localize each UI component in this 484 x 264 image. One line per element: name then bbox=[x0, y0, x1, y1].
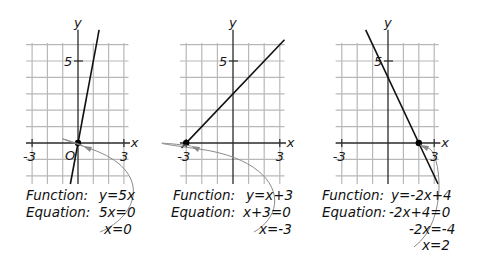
equation-label: Equation: bbox=[26, 204, 90, 220]
tick-label-y-5: 5 bbox=[219, 54, 227, 69]
pointer-arrowhead bbox=[83, 146, 92, 152]
equation-value: x+3=0 bbox=[242, 204, 291, 220]
panel-2: y x 5 -3 3 Function: y=x+3 Equation: x+3… bbox=[162, 15, 295, 237]
solution-value: x=0 bbox=[103, 221, 132, 237]
tick-label-x-min: -3 bbox=[23, 149, 36, 164]
origin-label: O bbox=[65, 148, 75, 163]
axes bbox=[180, 30, 286, 184]
grid bbox=[180, 43, 285, 184]
tick-label-x-min: -3 bbox=[333, 149, 346, 164]
pointer-arrowhead bbox=[191, 146, 200, 152]
y-axis-label: y bbox=[73, 15, 82, 30]
panel-3: y x 5 -3 3 Function: y=-2x+4 Equation: -… bbox=[322, 15, 455, 253]
x-axis-label: x bbox=[440, 135, 449, 150]
tick-label-x-max: 3 bbox=[120, 149, 128, 164]
function-line bbox=[366, 30, 438, 184]
step-value: -2x=-4 bbox=[409, 221, 455, 237]
equation-text: Function: y=-2x+4 Equation: -2x+4=0 -2x=… bbox=[322, 187, 455, 253]
tick-label-y-5: 5 bbox=[374, 54, 382, 69]
tick-label-y-5: 5 bbox=[64, 54, 72, 69]
tick-label-x-max: 3 bbox=[430, 149, 438, 164]
axes bbox=[336, 30, 441, 184]
equation-text: Function: y=5x Equation: 5x=0 x=0 bbox=[26, 187, 136, 237]
function-label: Function: bbox=[322, 187, 384, 203]
tick-label-x-min: -3 bbox=[177, 149, 190, 164]
solution-value: x=2 bbox=[421, 237, 450, 253]
y-axis-label: y bbox=[228, 15, 237, 30]
panel-1: y x 5 -3 3 O Function: y=5x Equation: 5x… bbox=[23, 15, 139, 237]
function-label: Function: bbox=[173, 187, 235, 203]
tick-label-x-max: 3 bbox=[276, 149, 284, 164]
function-label: Function: bbox=[26, 187, 88, 203]
grid bbox=[336, 43, 439, 184]
equation-text: Function: y=x+3 Equation: x+3=0 x=-3 bbox=[171, 187, 293, 237]
function-value: y=-2x+4 bbox=[390, 187, 452, 203]
equation-value: -2x+4=0 bbox=[389, 204, 450, 220]
x-axis-label: x bbox=[130, 135, 139, 150]
function-value: y=x+3 bbox=[245, 187, 293, 203]
equation-label: Equation: bbox=[171, 204, 235, 220]
x-axis-label: x bbox=[286, 135, 295, 150]
y-axis-label: y bbox=[383, 15, 392, 30]
grid bbox=[26, 43, 129, 184]
function-value: y=5x bbox=[98, 187, 136, 203]
linear-functions-figure: y x 5 -3 3 O Function: y=5x Equation: 5x… bbox=[0, 0, 484, 264]
solution-value: x=-3 bbox=[258, 221, 292, 237]
equation-label: Equation: bbox=[322, 204, 386, 220]
equation-value: 5x=0 bbox=[99, 204, 135, 220]
